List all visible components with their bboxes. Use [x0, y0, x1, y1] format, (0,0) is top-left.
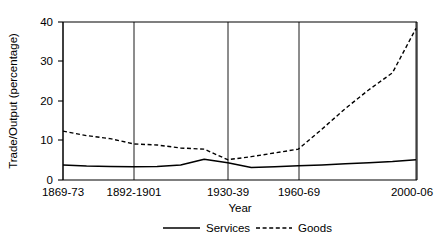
y-tick-label-0: 0 [47, 174, 53, 186]
x-tick-label-1930-39: 1930-39 [207, 186, 249, 198]
x-tick-labels: 1869-73 1892-1901 1930-39 1960-69 2000-0… [42, 186, 433, 198]
x-tick-label-1960-69: 1960-69 [278, 186, 320, 198]
x-tick-label-1869-73: 1869-73 [42, 186, 84, 198]
chart-figure: 0 10 20 30 40 1869-73 1892-1901 1930-39 … [0, 0, 443, 246]
y-tick-label-20: 20 [40, 95, 53, 107]
x-axis-title: Year [228, 202, 251, 214]
series-line-goods [63, 28, 416, 159]
line-chart: 0 10 20 30 40 1869-73 1892-1901 1930-39 … [0, 0, 443, 246]
legend-label-services: Services [206, 222, 250, 234]
chart-legend: Services Goods [163, 222, 332, 234]
y-tick-marks [58, 22, 63, 180]
plot-frame [63, 22, 417, 180]
x-tick-label-2000-06: 2000-06 [391, 186, 433, 198]
y-tick-label-10: 10 [40, 134, 53, 146]
y-tick-label-40: 40 [40, 16, 53, 28]
y-tick-labels: 0 10 20 30 40 [40, 16, 53, 186]
vertical-gridlines [63, 22, 416, 180]
y-tick-label-30: 30 [40, 55, 53, 67]
legend-label-goods: Goods [298, 222, 332, 234]
data-series [63, 28, 416, 167]
series-line-services [63, 159, 416, 167]
y-axis-title: Trade/Output (percentage) [7, 33, 19, 169]
x-tick-label-1892-1901: 1892-1901 [107, 186, 162, 198]
